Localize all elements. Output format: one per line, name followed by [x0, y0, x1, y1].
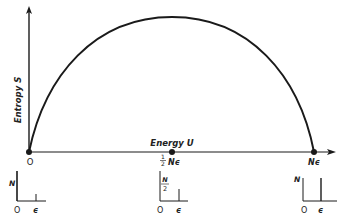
svg-text:ϵ: ϵ: [318, 206, 323, 215]
svg-text:ϵ: ϵ: [176, 206, 181, 215]
svg-text:2: 2: [163, 185, 167, 193]
x-axis-label: Energy U: [150, 138, 193, 148]
point-half: [169, 149, 175, 155]
svg-text:O: O: [301, 206, 307, 215]
x-axis: Energy U: [29, 138, 336, 155]
svg-text:O: O: [14, 206, 20, 215]
x-mark-half: 1 2 Nϵ: [160, 153, 180, 167]
inset-full-energy: N O ϵ: [294, 175, 337, 215]
inset-zero-energy: N O ϵ: [9, 171, 46, 215]
svg-text:Nϵ: Nϵ: [168, 158, 180, 167]
svg-text:N: N: [162, 176, 168, 184]
svg-text:O: O: [157, 206, 163, 215]
svg-text:2: 2: [161, 160, 165, 167]
entropy-diagram: Entropy S Energy U O 1 2 Nϵ Nϵ N O ϵ N 2…: [0, 0, 344, 221]
x-mark-max: Nϵ: [308, 158, 320, 167]
y-axis-label: Entropy S: [13, 77, 23, 124]
point-max: [311, 149, 317, 155]
svg-text:N: N: [294, 175, 301, 184]
y-axis: Entropy S: [13, 6, 32, 152]
svg-text:1: 1: [161, 153, 165, 160]
entropy-curve: [29, 17, 314, 152]
point-origin: [26, 149, 32, 155]
svg-text:N: N: [9, 179, 16, 188]
x-mark-origin: O: [27, 157, 34, 167]
inset-half-energy: N 2 O ϵ: [157, 171, 188, 215]
svg-text:ϵ: ϵ: [33, 206, 38, 215]
